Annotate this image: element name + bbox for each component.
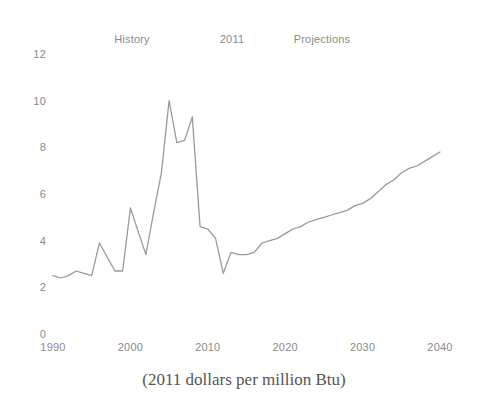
y-axis-tick-label: 12 [18, 48, 46, 60]
x-axis-tick-label: 2000 [118, 341, 143, 353]
y-axis: 024681012 [0, 0, 46, 412]
y-axis-tick-label: 8 [18, 141, 46, 153]
plot-area [0, 0, 488, 412]
projections-region-label: Projections [294, 33, 351, 45]
x-axis-tick-label: 1990 [40, 341, 65, 353]
y-axis-tick-label: 6 [18, 188, 46, 200]
history-region-label: History [114, 33, 150, 45]
x-axis-tick-label: 2030 [350, 341, 375, 353]
divider-year-label: 2011 [220, 33, 244, 45]
x-axis-tick-label: 2040 [427, 341, 452, 353]
y-axis-tick-label: 0 [18, 328, 46, 340]
chart-caption: (2011 dollars per million Btu) [0, 370, 488, 390]
natural-gas-price-chart: History 2011 Projections 024681012 19902… [0, 0, 488, 412]
y-axis-tick-label: 4 [18, 235, 46, 247]
y-axis-tick-label: 10 [18, 95, 46, 107]
x-axis-tick-label: 2010 [195, 341, 220, 353]
x-axis-tick-label: 2020 [273, 341, 298, 353]
price-series-line [53, 101, 440, 278]
y-axis-tick-label: 2 [18, 281, 46, 293]
